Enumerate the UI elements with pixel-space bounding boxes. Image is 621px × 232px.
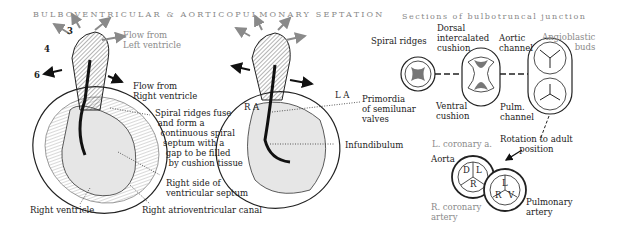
flow-right-ventricle-label: Flow from Right ventricle bbox=[133, 81, 197, 101]
aortic-cusp-l: L bbox=[476, 165, 482, 175]
flow-left-ventricle-label: Flow from Left ventricle bbox=[123, 30, 181, 50]
bulbotruncal-sections bbox=[401, 38, 572, 211]
angioblastic-buds-label: Angioblastic buds bbox=[542, 32, 595, 52]
rotation-label: Rotation to adult position bbox=[500, 134, 573, 154]
right-av-canal-label: Right atrioventricular canal bbox=[142, 205, 262, 215]
r-coronary-label: R. coronary artery bbox=[431, 202, 481, 222]
pulmonary-cusp-r: R bbox=[495, 190, 501, 200]
infundibulum-label: Infundibulum bbox=[345, 140, 403, 150]
ventral-cushion-label: Ventral cushion bbox=[436, 101, 469, 121]
aortic-channel-label: Aortic channel bbox=[499, 33, 533, 53]
right-ventricle-label: Right ventricle bbox=[30, 205, 94, 215]
l-coronary-label: L. coronary a. bbox=[432, 139, 492, 149]
aortic-cusp-r: R bbox=[470, 179, 476, 189]
primordia-semilunar-label: Primordia of semilunar valves bbox=[362, 94, 416, 124]
pulmonary-cusp-l: L bbox=[502, 178, 508, 188]
dorsal-cushion-label: Dorsal intercalated cushion bbox=[437, 23, 489, 53]
aortic-cusp-d: D bbox=[463, 165, 470, 175]
arch-6-label: 6 bbox=[34, 70, 40, 80]
spiral-ridges-fuse-label: Spiral ridges fuse and form a continuous… bbox=[155, 108, 243, 168]
right-atrium-label: R A bbox=[244, 102, 259, 112]
pulm-channel-label: Pulm. channel bbox=[500, 102, 534, 122]
right-side-septum-label: Right side of ventricular septum bbox=[166, 178, 248, 198]
pulmonary-cusp-v: V bbox=[508, 190, 514, 200]
arch-3-label: 3 bbox=[67, 26, 73, 36]
aorta-label: Aorta bbox=[431, 154, 455, 164]
pulmonary-artery-label: Pulmonary artery bbox=[526, 197, 573, 217]
arch-4-label: 4 bbox=[44, 44, 50, 54]
spiral-ridges-label: Spiral ridges bbox=[371, 36, 427, 46]
left-atrium-label: L A bbox=[335, 90, 350, 100]
